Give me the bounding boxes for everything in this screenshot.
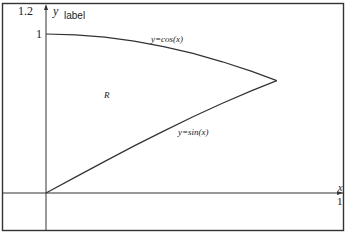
region-label: R	[104, 91, 110, 100]
y-axis-extra-label: label	[64, 11, 85, 21]
y-axis-arrow-icon	[44, 4, 48, 10]
sin-curve	[46, 81, 277, 193]
cos-curve-label: y=cos(x)	[151, 35, 183, 44]
y-tick-1: 1	[36, 28, 42, 40]
x-tick-1: 1	[337, 196, 343, 207]
sin-curve-label: y=sin(x)	[178, 128, 209, 137]
y-axis-label: y	[53, 5, 58, 17]
x-axis-label: x	[338, 183, 342, 193]
y-tick-1-2: 1.2	[18, 5, 33, 17]
